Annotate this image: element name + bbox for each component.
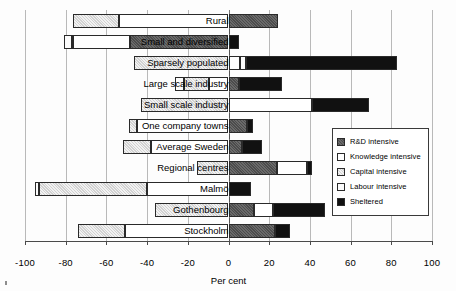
x-tick	[147, 241, 148, 245]
category-label: Small and diversified	[25, 35, 232, 49]
bar-segment	[242, 140, 262, 154]
bar-segment	[239, 77, 283, 91]
legend-swatch-icon	[337, 198, 345, 206]
legend-swatch-icon	[337, 153, 345, 161]
x-tick	[106, 241, 107, 245]
legend-label: Sheltered	[350, 197, 383, 206]
scan-artifact	[5, 281, 7, 285]
x-tick-label: -100	[5, 257, 45, 268]
x-tick	[66, 241, 67, 245]
zero-tick	[229, 155, 230, 160]
x-tick	[310, 241, 311, 245]
x-tick-label: 100	[412, 257, 452, 268]
x-tick-label: 20	[249, 257, 289, 268]
zero-tick	[229, 71, 230, 76]
zero-tick	[229, 92, 230, 97]
bar-segment	[229, 224, 276, 238]
legend-label: Labour intensive	[350, 182, 407, 191]
zero-tick	[229, 50, 230, 55]
category-label: Average Sweden	[25, 140, 232, 154]
bar-segment	[275, 224, 289, 238]
bar-segment	[307, 161, 312, 175]
zero-tick	[229, 197, 230, 202]
legend: R&D intensiveKnowledge intensiveCapital …	[332, 128, 429, 216]
bar-segment	[254, 203, 273, 217]
x-tick	[229, 241, 230, 245]
legend-item: R&D intensive	[337, 134, 424, 149]
zero-tick	[229, 176, 230, 181]
bar-segment	[229, 98, 312, 112]
legend-item: Labour intensive	[337, 179, 424, 194]
x-tick-label: -20	[168, 257, 208, 268]
bar-segment	[273, 203, 325, 217]
category-label: One company towns	[25, 119, 232, 133]
legend-swatch-icon	[337, 168, 345, 176]
category-label: Regional centres	[25, 161, 232, 175]
category-label: Rural	[25, 14, 232, 28]
x-tick	[432, 241, 433, 245]
legend-item: Knowledge intensive	[337, 149, 424, 164]
legend-item: Capital intensive	[337, 164, 424, 179]
category-label: Gothenbourg	[25, 203, 232, 217]
bar-segment	[229, 14, 279, 28]
bar-segment	[277, 161, 307, 175]
x-tick-label: 60	[331, 257, 371, 268]
x-tick	[391, 241, 392, 245]
zero-tick	[229, 29, 230, 34]
category-label: Malmö	[25, 182, 232, 196]
bar-chart: RuralSmall and diversifiedSparsely popul…	[0, 0, 456, 291]
x-tick-label: -60	[86, 257, 126, 268]
category-label: Large scale industry	[25, 77, 232, 91]
gridline	[432, 10, 433, 242]
legend-label: Capital intensive	[350, 167, 407, 176]
x-tick-label: -80	[46, 257, 86, 268]
x-tick-label: 40	[290, 257, 330, 268]
category-label: Small scale industry	[25, 98, 232, 112]
category-label: Sparsely populated	[25, 56, 232, 70]
bar-segment	[229, 182, 251, 196]
legend-swatch-icon	[337, 183, 345, 191]
x-tick	[269, 241, 270, 245]
bar-segment	[312, 98, 369, 112]
x-tick-label: 80	[371, 257, 411, 268]
legend-swatch-icon	[337, 138, 345, 146]
bar-segment	[246, 56, 398, 70]
zero-tick	[229, 113, 230, 118]
zero-tick	[229, 218, 230, 223]
legend-label: R&D intensive	[350, 137, 399, 146]
legend-label: Knowledge intensive	[350, 152, 421, 161]
bar-segment	[247, 119, 253, 133]
x-tick	[351, 241, 352, 245]
x-tick	[188, 241, 189, 245]
legend-item: Sheltered	[337, 194, 424, 209]
zero-tick	[229, 134, 230, 139]
x-tick-label: 0	[209, 257, 249, 268]
x-tick	[25, 241, 26, 245]
bar-segment	[229, 161, 278, 175]
x-axis-title: Per cent	[25, 275, 432, 286]
bar-segment	[229, 203, 254, 217]
category-label: Stockholm	[25, 224, 232, 238]
x-tick-label: -40	[127, 257, 167, 268]
